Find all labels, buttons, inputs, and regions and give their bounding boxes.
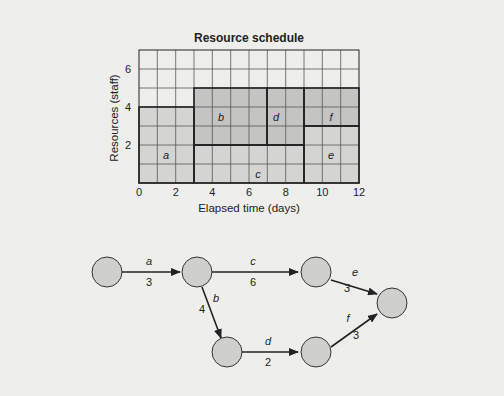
node-3 [301, 257, 331, 287]
svg-text:3: 3 [344, 282, 351, 294]
svg-text:3: 3 [146, 276, 152, 288]
svg-text:4: 4 [125, 101, 131, 113]
x-axis-label: Elapsed time (days) [198, 202, 300, 214]
node-6 [377, 288, 407, 318]
svg-text:c: c [250, 255, 256, 267]
svg-text:2: 2 [173, 186, 179, 198]
network-nodes [92, 257, 407, 367]
x-ticks: 0 2 4 6 8 10 12 [136, 186, 365, 198]
svg-text:12: 12 [353, 186, 365, 198]
svg-text:8: 8 [283, 186, 289, 198]
diagram-canvas: Resource schedule a b c d e f [0, 0, 504, 396]
svg-text:6: 6 [125, 63, 131, 75]
node-1 [92, 257, 122, 287]
svg-text:e: e [352, 266, 358, 278]
node-2 [182, 257, 212, 287]
svg-text:10: 10 [316, 186, 328, 198]
svg-text:4: 4 [199, 303, 205, 315]
label-d: d [273, 111, 280, 123]
label-a: a [163, 149, 169, 161]
svg-text:2: 2 [125, 139, 131, 151]
svg-text:2: 2 [265, 356, 271, 368]
svg-text:d: d [265, 335, 272, 347]
svg-text:f: f [346, 312, 350, 324]
svg-text:4: 4 [209, 186, 215, 198]
svg-text:6: 6 [246, 186, 252, 198]
node-5 [301, 337, 331, 367]
svg-text:a: a [146, 255, 152, 267]
y-ticks: 2 4 6 [125, 63, 131, 151]
svg-text:3: 3 [353, 329, 359, 341]
svg-text:0: 0 [136, 186, 142, 198]
chart-title: Resource schedule [194, 31, 304, 45]
node-4 [212, 337, 242, 367]
label-b: b [218, 111, 224, 123]
label-c: c [255, 168, 261, 180]
y-axis-label: Resources (staff) [108, 74, 120, 162]
svg-text:b: b [213, 292, 219, 304]
label-e: e [328, 149, 334, 161]
svg-text:6: 6 [250, 276, 256, 288]
